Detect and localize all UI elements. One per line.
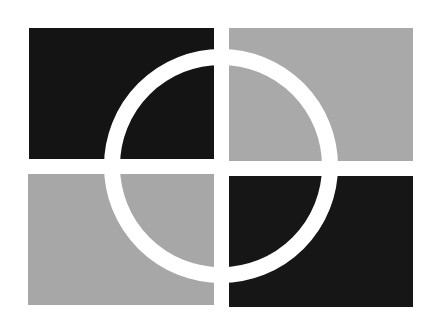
white-ring	[112, 57, 330, 275]
ring-overlay	[0, 0, 442, 326]
